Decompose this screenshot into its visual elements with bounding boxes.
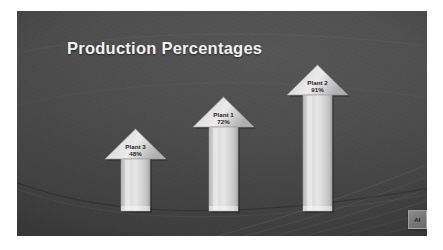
ai-badge-label: AI bbox=[414, 217, 420, 223]
screenshot-canvas: Production Percentages bbox=[0, 0, 443, 250]
page-title: Production Percentages bbox=[67, 39, 262, 58]
arrow-plant-1[interactable]: Plant 1 72% bbox=[191, 95, 256, 213]
ai-badge[interactable]: AI bbox=[408, 210, 427, 229]
arrow-plant-2[interactable]: Plant 2 91% bbox=[285, 63, 350, 213]
presentation-slide: Production Percentages bbox=[17, 11, 427, 236]
arrow-plant-3[interactable]: Plant 3 48% bbox=[103, 127, 168, 213]
